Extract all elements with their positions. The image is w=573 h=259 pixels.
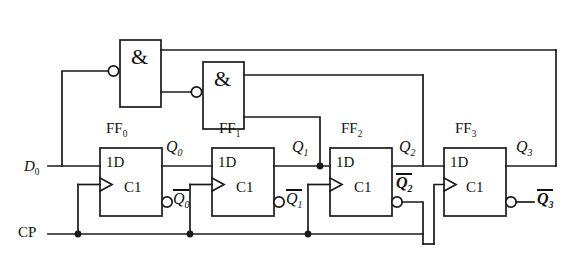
d0-input-label: D0 <box>24 158 40 177</box>
ff0-clock-triangle <box>100 178 112 191</box>
ff1-qbar-bubble <box>274 197 284 207</box>
and-gate-2-symbol: & <box>214 66 231 92</box>
and-gate-2-input-bubble <box>191 87 201 97</box>
junction-cp-ff2 <box>305 231 312 238</box>
ff0-name-label: FF0 <box>106 120 127 139</box>
ff3-qbar-label: Q3 <box>537 190 554 210</box>
ff2-data-port-label: 1D <box>336 154 354 171</box>
circuit-schematic-svg <box>0 0 573 259</box>
ff0-data-port-label: 1D <box>106 154 124 171</box>
ff3-q-label: Q3 <box>516 138 533 158</box>
ff2-qbar-label: Q2 <box>396 174 413 194</box>
ff3-qbar-bubble <box>506 197 516 207</box>
ff0-qbar-label: Q0 <box>173 190 190 210</box>
and-gate-1-input-bubble <box>108 66 118 76</box>
ff1-clock-triangle <box>212 178 224 191</box>
ff3-clock-port-label: C1 <box>466 179 484 196</box>
ff3-clock-riser <box>434 185 444 245</box>
ff2-name-label: FF2 <box>341 120 362 139</box>
ff1-data-port-label: 1D <box>218 154 236 171</box>
ff1-q-label: Q1 <box>292 138 309 158</box>
cp-input-label: CP <box>18 224 36 241</box>
circuit-diagram: & & D0 CP FF0 FF1 FF2 FF3 1D C1 1D C1 1D… <box>0 0 573 259</box>
junction-q1-node <box>317 163 324 170</box>
ff0-q-label: Q0 <box>166 138 183 158</box>
ff3-clock-triangle <box>444 178 456 191</box>
ff2-qbar-wire <box>402 202 423 234</box>
and-gate-1-symbol: & <box>131 44 148 70</box>
ff0-qbar-bubble <box>162 197 172 207</box>
ff2-q-label: Q2 <box>399 138 416 158</box>
ff2-qbar-bubble <box>392 197 402 207</box>
junction-cp-ff0 <box>75 231 82 238</box>
ff2-clock-port-label: C1 <box>354 179 372 196</box>
and-gate-2-lower-branch <box>244 117 320 166</box>
junction-cp-ff1 <box>187 231 194 238</box>
ff1-name-label: FF1 <box>219 120 240 139</box>
and-gate-1-feedback-down-wire <box>62 71 108 166</box>
ff1-clock-port-label: C1 <box>236 179 254 196</box>
ff3-data-port-label: 1D <box>450 154 468 171</box>
ff3-name-label: FF3 <box>455 120 476 139</box>
ff1-qbar-label: Q1 <box>286 190 303 210</box>
ff0-clock-port-label: C1 <box>124 179 142 196</box>
ff2-clock-triangle <box>330 178 342 191</box>
